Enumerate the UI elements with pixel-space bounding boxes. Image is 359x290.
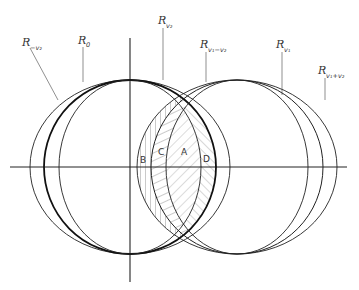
label-r-v1-minus-v2: R v₁−v₂: [199, 38, 227, 54]
label-r-v2: R v₂: [157, 14, 173, 30]
region-label-a: A: [181, 147, 188, 157]
svg-text:v₁−v₂: v₁−v₂: [208, 46, 227, 54]
svg-text:R: R: [21, 36, 30, 49]
diagram-canvas: R −v₂ R 0 R v₂ R v₁−v₂ R v₁ R v₁+v₂ B C …: [0, 0, 359, 290]
svg-text:R: R: [317, 64, 326, 77]
leader-r-minus-v2: [30, 48, 58, 100]
svg-text:R: R: [77, 34, 86, 47]
svg-text:R: R: [275, 38, 284, 51]
svg-text:v₂: v₂: [166, 22, 173, 30]
diagram-svg: R −v₂ R 0 R v₂ R v₁−v₂ R v₁ R v₁+v₂ B C …: [0, 0, 359, 290]
label-r-minus-v2: R −v₂: [21, 36, 42, 52]
region-label-d: D: [203, 154, 210, 164]
svg-text:v₁: v₁: [284, 46, 291, 54]
region-label-c: C: [158, 147, 164, 157]
svg-text:v₁+v₂: v₁+v₂: [326, 72, 345, 80]
svg-text:R: R: [199, 38, 208, 51]
label-r-v1-plus-v2: R v₁+v₂: [317, 64, 345, 80]
svg-text:R: R: [157, 14, 166, 27]
label-r-v1: R v₁: [275, 38, 291, 54]
region-label-b: B: [140, 155, 146, 165]
region-d-hatch: [0, 0, 359, 290]
svg-text:0: 0: [86, 41, 90, 49]
svg-text:−v₂: −v₂: [30, 44, 42, 52]
label-r-0: R 0: [77, 34, 90, 49]
